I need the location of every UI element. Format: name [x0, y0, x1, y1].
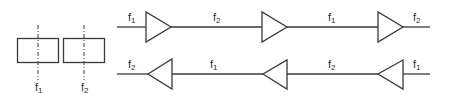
bottom-label-1: f2 [128, 58, 136, 72]
block-f2-label: f2 [81, 81, 89, 95]
bottom-label-4: f1 [413, 58, 421, 72]
bottom-label-3: f2 [328, 58, 336, 72]
bottom-amplifier-3-icon [378, 60, 403, 89]
bottom-label-2: f1 [210, 58, 218, 72]
bottom-amplifier-2-icon [263, 60, 287, 89]
top-label-1: f1 [128, 11, 136, 25]
top-label-2: f2 [213, 11, 221, 25]
top-chain: f1 f2 f1 f2 [117, 11, 430, 42]
diagram-canvas: f1 f2 f1 f2 f1 f2 f2 f1 f2 f1 [0, 0, 450, 97]
block-pair: f1 f2 [18, 25, 105, 95]
top-amplifier-3-icon [378, 12, 403, 42]
block-f1-label: f1 [35, 81, 43, 95]
top-amplifier-2-icon [262, 12, 287, 42]
top-amplifier-1-icon [146, 12, 171, 42]
top-label-4: f2 [413, 11, 421, 25]
bottom-chain: f2 f1 f2 f1 [117, 58, 430, 89]
top-label-3: f1 [328, 11, 336, 25]
bottom-amplifier-1-icon [148, 59, 172, 89]
